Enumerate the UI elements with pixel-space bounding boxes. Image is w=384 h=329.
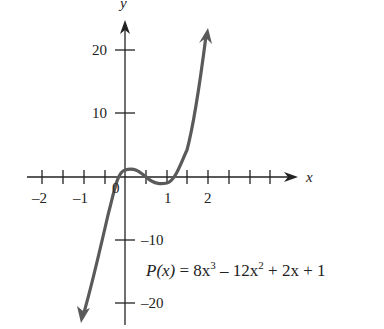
x-axis-label: x [306,170,313,185]
function-equation: P(x) = 8x3 – 12x2 + 2x + 1 [146,259,326,281]
x-tick-label-2: 2 [204,191,212,206]
x-tick-label-neg1: –1 [73,191,88,206]
x-tick-label-0: 0 [112,181,120,196]
y-axis-label: y [120,0,127,11]
x-tick-label-neg2: –2 [32,191,47,206]
x-tick-label-1: 1 [164,191,172,206]
y-tick-label-10: 10 [92,106,107,121]
y-tick-label-neg20: –20 [141,296,164,311]
y-tick-label-neg10: –10 [141,233,164,248]
y-tick-label-20: 20 [92,43,107,58]
